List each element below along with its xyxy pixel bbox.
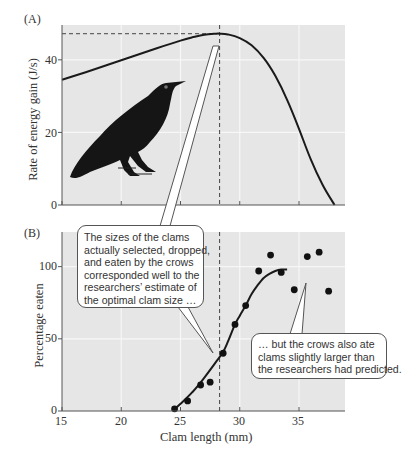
data-point	[267, 252, 274, 259]
panel-a-ytick-20: 20	[45, 126, 57, 141]
callout-larger-clams: … but the crows also ate clams slightly …	[251, 333, 387, 379]
panel-b-y-axis-label: Percentage eaten	[32, 271, 47, 381]
panel-a-background	[62, 25, 345, 205]
callout-2-line: the researchers had predicted.	[258, 363, 380, 376]
data-point	[232, 321, 239, 328]
xtick-15: 15	[55, 414, 67, 429]
data-point	[184, 397, 191, 404]
data-point	[197, 382, 204, 389]
data-point	[207, 379, 214, 386]
data-point	[242, 302, 249, 309]
callout-1-line: corresponded well to the	[84, 269, 197, 282]
data-point	[220, 350, 227, 357]
callout-2-line: … but the crows also ate	[258, 338, 380, 351]
panel-a-plot	[58, 25, 345, 205]
x-axis-label: Clam length (mm)	[160, 430, 252, 445]
callout-1-line: researchers’ estimate of	[84, 281, 197, 294]
callout-1-line: and eaten by the crows	[84, 256, 197, 269]
data-point	[325, 288, 332, 295]
panel-a-ytick-0: 0	[51, 198, 57, 213]
panel-b-label: (B)	[24, 226, 40, 241]
panel-a-ytick-40: 40	[45, 53, 57, 68]
panel-b-ytick-50: 50	[45, 331, 57, 346]
xtick-35: 35	[292, 414, 304, 429]
callout-1-line: The sizes of the clams	[84, 231, 197, 244]
data-point	[291, 286, 298, 293]
xtick-30: 30	[233, 414, 245, 429]
data-point	[278, 269, 285, 276]
xtick-25: 25	[174, 414, 186, 429]
xtick-20: 20	[115, 414, 127, 429]
callout-1-line: the optimal clam size …	[84, 294, 197, 307]
data-point	[255, 268, 262, 275]
panel-a-label: (A)	[24, 12, 41, 27]
callout-2-line: clams slightly larger than	[258, 351, 380, 364]
callout-optimal-size: The sizes of the clams actually selected…	[77, 225, 204, 308]
callout-1-line: actually selected, dropped,	[84, 244, 197, 257]
data-point	[316, 249, 323, 256]
panel-a-y-axis-label: Rate of energy gain (J/s)	[26, 55, 41, 185]
data-point	[304, 253, 311, 260]
